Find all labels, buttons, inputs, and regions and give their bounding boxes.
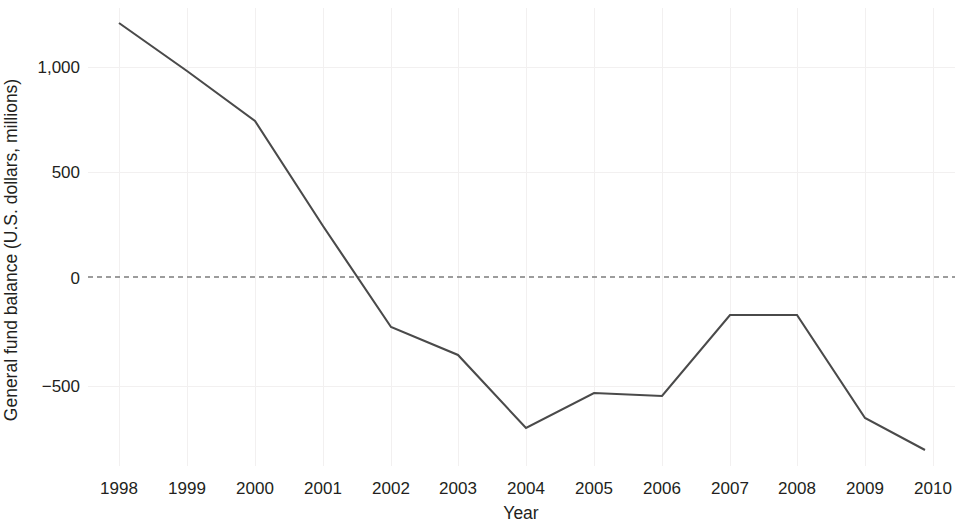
chart-canvas: 1,000 500 0 −500 1998 1999 2000 2001 200… [0,0,961,525]
x-tick-label-2007: 2007 [711,479,749,498]
y-tick-label-0: 0 [71,269,80,288]
y-axis-title: General fund balance (U.S. dollars, mill… [1,79,21,421]
x-tick-label-2003: 2003 [439,479,477,498]
y-tick-label-500: 500 [52,163,80,182]
x-axis-tick-labels: 1998 1999 2000 2001 2002 2003 2004 2005 … [100,479,952,498]
x-tick-label-2002: 2002 [372,479,410,498]
x-tick-label-1998: 1998 [100,479,138,498]
x-tick-label-2006: 2006 [643,479,681,498]
y-axis-tick-labels: 1,000 500 0 −500 [37,58,80,396]
x-tick-label-2001: 2001 [304,479,342,498]
x-tick-label-2008: 2008 [778,479,816,498]
x-axis-title: Year [503,503,539,523]
y-tick-label-minus500: −500 [42,377,80,396]
vertical-gridlines [119,8,933,466]
x-tick-label-2005: 2005 [575,479,613,498]
x-tick-label-2000: 2000 [236,479,274,498]
horizontal-gridlines [88,67,955,386]
x-tick-label-1999: 1999 [168,479,206,498]
line-chart-figure: 1,000 500 0 −500 1998 1999 2000 2001 200… [0,0,961,525]
x-tick-label-2004: 2004 [507,479,545,498]
y-tick-label-1000: 1,000 [37,58,80,77]
x-tick-label-2009: 2009 [846,479,884,498]
x-tick-label-2010: 2010 [914,479,952,498]
